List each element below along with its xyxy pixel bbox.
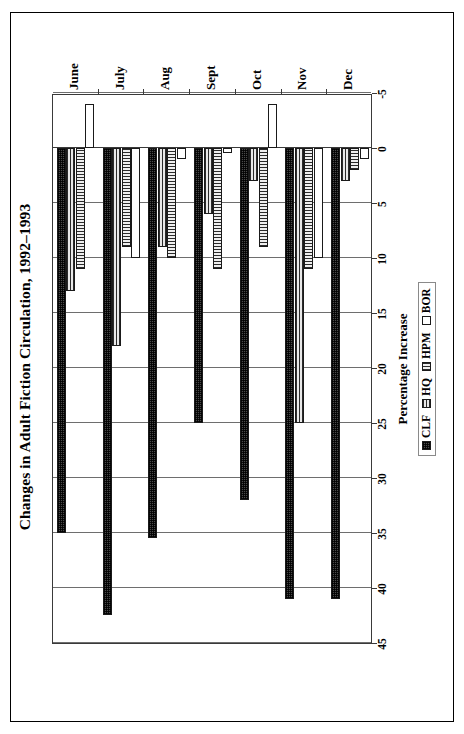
category-separator (281, 89, 282, 94)
gridline-35 (53, 532, 371, 533)
legend-swatch-icon (422, 362, 431, 371)
bar-hpm-oct (259, 148, 268, 247)
gridline-30 (53, 477, 371, 478)
value-tick-label: -5 (376, 74, 388, 114)
bar-bor-oct (268, 104, 277, 148)
category-separator (326, 89, 327, 94)
legend-swatch-icon (422, 399, 431, 408)
value-tick-label: 20 (376, 349, 388, 389)
legend-label: BOR (421, 288, 433, 313)
value-tick-label: 15 (376, 294, 388, 334)
chart-title: Changes in Adult Fiction Circulation, 19… (16, 12, 34, 722)
category-label-july: July (112, 38, 128, 90)
figure-page: Changes in Adult Fiction Circulation, 19… (0, 0, 464, 734)
bar-hq-aug (158, 148, 167, 247)
gridline-40 (53, 587, 371, 588)
category-label-june: June (66, 38, 82, 90)
category-separator (189, 89, 190, 94)
bar-hq-july (112, 148, 121, 346)
bar-hq-sept (204, 148, 213, 214)
bar-bor-dec (360, 148, 369, 159)
legend-swatch-icon (422, 316, 431, 325)
bar-hpm-nov (304, 148, 313, 269)
bar-bor-sept (223, 148, 232, 154)
bar-clf-dec (331, 148, 340, 599)
plot-area (52, 94, 372, 644)
bar-clf-sept (194, 148, 203, 423)
bar-bor-nov (314, 148, 323, 258)
gridline-15 (53, 312, 371, 313)
category-label-aug: Aug (157, 38, 173, 90)
category-separator (98, 89, 99, 94)
category-label-nov: Nov (294, 38, 310, 90)
gridline--5 (53, 92, 371, 93)
gridline-20 (53, 367, 371, 368)
chart-legend: CLFHQHPMBOR (418, 282, 436, 456)
legend-item-hpm[interactable]: HPM (421, 332, 433, 371)
value-axis-title: Percentage Increase (395, 94, 411, 644)
gridline-10 (53, 257, 371, 258)
value-tick-label: 30 (376, 459, 388, 499)
category-label-sept: Sept (203, 38, 219, 90)
plot-inner (53, 95, 371, 643)
value-tick-label: 35 (376, 514, 388, 554)
bar-hq-nov (295, 148, 304, 423)
bar-bor-june (85, 104, 94, 148)
legend-label: HQ (421, 378, 433, 396)
legend-item-bor[interactable]: BOR (421, 288, 433, 325)
gridline-25 (53, 422, 371, 423)
value-tick-label: 5 (376, 184, 388, 224)
bar-hpm-july (122, 148, 131, 247)
bar-clf-oct (240, 148, 249, 500)
category-separator (143, 89, 144, 94)
category-separator (235, 89, 236, 94)
bar-bor-aug (177, 148, 186, 159)
bar-hq-oct (249, 148, 258, 181)
legend-item-hq[interactable]: HQ (421, 378, 433, 408)
value-tick-label: 45 (376, 624, 388, 664)
value-tick-label: 40 (376, 569, 388, 609)
bar-bor-july (131, 148, 140, 258)
value-tick-label: 0 (376, 129, 388, 169)
value-tick-label: 10 (376, 239, 388, 279)
bar-clf-june (57, 148, 66, 533)
bar-clf-july (103, 148, 112, 616)
chart-figure: Changes in Adult Fiction Circulation, 19… (10, 12, 454, 722)
bar-hpm-june (76, 148, 85, 269)
bar-clf-nov (285, 148, 294, 599)
legend-swatch-icon (422, 441, 431, 450)
gridline-45 (53, 642, 371, 643)
category-label-oct: Oct (249, 38, 265, 90)
bar-hpm-sept (213, 148, 222, 269)
bar-hpm-dec (350, 148, 359, 170)
bar-hpm-aug (167, 148, 176, 258)
rotated-canvas: Changes in Adult Fiction Circulation, 19… (0, 0, 464, 734)
category-label-dec: Dec (340, 38, 356, 90)
value-tick-label: 25 (376, 404, 388, 444)
legend-item-clf[interactable]: CLF (421, 415, 433, 450)
bar-hq-dec (341, 148, 350, 181)
legend-label: CLF (421, 415, 433, 438)
bar-clf-aug (148, 148, 157, 539)
legend-label: HPM (421, 332, 433, 359)
bar-hq-june (66, 148, 75, 291)
